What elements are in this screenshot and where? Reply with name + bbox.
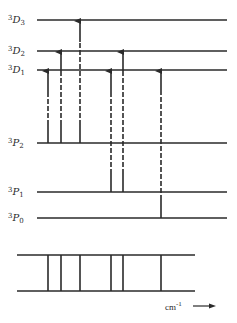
level-3P1: 3P1 [8, 186, 227, 199]
level-label: 3D2 [8, 45, 25, 58]
energy-level-diagram: 3D33D23D13P23P13P0 cm-1 [0, 0, 237, 323]
unit-text: cm-1 [165, 300, 182, 312]
level-label: 3P1 [8, 186, 24, 199]
level-3P0: 3P0 [8, 212, 227, 225]
level-label: 3D3 [8, 14, 25, 27]
spectrum-box [17, 255, 195, 291]
level-3P2: 3P2 [8, 137, 227, 150]
level-3D3: 3D3 [8, 14, 227, 27]
level-label: 3D1 [8, 64, 25, 77]
level-3D1: 3D1 [8, 64, 227, 77]
level-label: 3P0 [8, 212, 24, 225]
energy-levels: 3D33D23D13P23P13P0 [8, 14, 227, 225]
level-3D2: 3D2 [8, 45, 227, 58]
axis-unit-label: cm-1 [165, 300, 216, 312]
arrowhead-right-icon [209, 304, 216, 309]
level-label: 3P2 [8, 137, 24, 150]
